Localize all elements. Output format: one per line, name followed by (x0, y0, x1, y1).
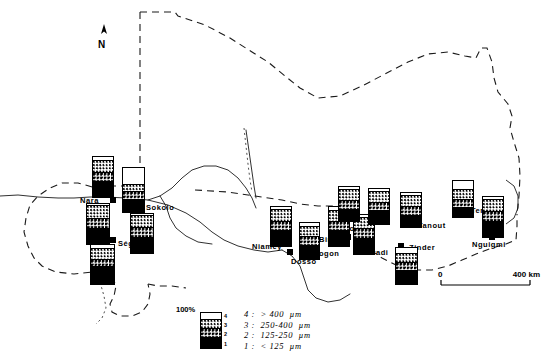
bar-segment-class-2 (329, 221, 349, 230)
bar-segment-class-3 (87, 205, 109, 217)
bar-segment-class-1 (131, 237, 153, 253)
bar-segment-class-1 (354, 238, 374, 254)
river-niger (0, 130, 350, 302)
north-arrow: N (95, 24, 113, 54)
bar-segment-class-1 (401, 215, 421, 227)
bar-segment-class-2 (131, 227, 153, 237)
stacked-bar-Maradi-bar (368, 188, 390, 225)
bar-segment-class-2 (369, 202, 389, 211)
bar-segment-class-1 (396, 270, 417, 284)
bar-segment-class-2 (271, 221, 291, 230)
stacked-bar-Niamey-bar (270, 206, 292, 247)
bar-segment-class-3 (131, 215, 153, 226)
city-marker-dosso (287, 249, 293, 255)
bar-segment-class-1 (93, 181, 113, 197)
bar-segment-class-3 (453, 189, 473, 199)
bar-segment-class-2 (300, 236, 319, 245)
bar-segment-class-1 (91, 266, 114, 284)
bar-segment-class-3 (271, 209, 291, 221)
legend-tick-4: 4 (224, 314, 233, 320)
city-label-sokolo: Sokolo (146, 203, 174, 212)
bar-segment-class-1 (123, 199, 144, 212)
bar-segment-class-1 (369, 210, 389, 224)
scale-bar: 0 400 km (440, 272, 538, 290)
legend-tick-numbers: 4321 (224, 312, 233, 349)
bar-segment-class-1 (87, 228, 109, 244)
legend-class-row-4: 4 : > 400 µm (244, 309, 311, 320)
legend-segment-class-3 (201, 319, 221, 328)
bar-segment-class-3 (483, 199, 503, 211)
bar-segment-class-2 (123, 191, 144, 199)
bar-segment-class-3 (93, 160, 113, 172)
bar-segment-class-3 (396, 253, 417, 262)
legend-class-row-3: 3 : 250-400 µm (244, 320, 311, 331)
stacked-bar-Nara-north (92, 156, 114, 198)
bar-segment-class-3 (123, 184, 144, 191)
stacked-bar-Zinder-bar (395, 247, 418, 285)
bar-segment-class-3 (369, 191, 389, 202)
bar-segment-class-3 (401, 195, 421, 207)
legend-tick-1: 1 (224, 342, 233, 348)
legend-swatch-box (200, 312, 222, 349)
stacked-bar-Dosso-bar (299, 222, 320, 260)
bar-segment-class-1 (453, 207, 473, 217)
legend-tick-2: 2 (224, 332, 233, 338)
bar-segment-class-3 (339, 189, 359, 200)
stacked-bar-Segou-bar (90, 244, 115, 285)
bar-segment-class-2 (354, 228, 374, 238)
stacked-bar-Sokolo-bar (122, 167, 145, 213)
bar-segment-class-1 (483, 221, 503, 237)
bar-segment-class-1 (300, 245, 319, 259)
bar-segment-class-2 (483, 211, 503, 221)
bar-segment-class-2 (93, 172, 113, 181)
stacked-bar-Nara-bar (86, 203, 110, 245)
stacked-bar-Nguigmi-bar (482, 196, 504, 238)
bar-segment-class-1 (271, 230, 291, 246)
legend-segment-class-2 (201, 328, 221, 337)
legend-percent-label: 100% (176, 305, 195, 314)
bar-segment-class-1 (329, 230, 349, 246)
legend-segment-class-1 (201, 337, 221, 348)
bar-segment-class-1 (339, 209, 359, 221)
legend: 100% 4321 4 : > 400 µm3 : 250-400 µm2 : … (176, 305, 366, 355)
stacked-bar-Tahoua-bar (338, 186, 360, 222)
scale-end-label: 400 km (513, 270, 540, 279)
bar-segment-class-2 (453, 199, 473, 207)
city-marker-ségou (110, 237, 116, 243)
bar-segment-class-4 (123, 168, 144, 184)
bar-segment-class-2 (91, 259, 114, 266)
city-label-tanout: Tanout (418, 221, 446, 230)
bar-segment-class-2 (401, 206, 421, 214)
bar-segment-class-4 (453, 181, 473, 189)
legend-class-list: 4 : > 400 µm3 : 250-400 µm2 : 125-250 µm… (244, 309, 311, 351)
lake-chad-outline (506, 180, 518, 224)
bar-segment-class-3 (300, 226, 319, 236)
map-figure: N 0 400 km NaraSokoloSégouNiameyDossoDog… (0, 0, 551, 359)
stacked-bar-Termit-bar (452, 180, 474, 218)
north-arrow-label: N (98, 39, 105, 50)
scale-start-label: 0 (438, 270, 442, 279)
bar-segment-class-3 (91, 248, 114, 258)
seasonal-river-dotted (96, 128, 252, 324)
legend-tick-3: 3 (224, 323, 233, 329)
legend-class-row-1: 1 : < 125 µm (244, 341, 311, 352)
stacked-bar-Sokolo-se (130, 213, 154, 254)
city-label-nguigmi: Nguigmi (472, 240, 506, 249)
legend-class-row-2: 2 : 125-250 µm (244, 330, 311, 341)
bar-segment-class-2 (87, 218, 109, 228)
bar-segment-class-2 (396, 262, 417, 270)
bar-segment-class-2 (339, 200, 359, 209)
stacked-bar-Tanout-bar (400, 192, 422, 228)
